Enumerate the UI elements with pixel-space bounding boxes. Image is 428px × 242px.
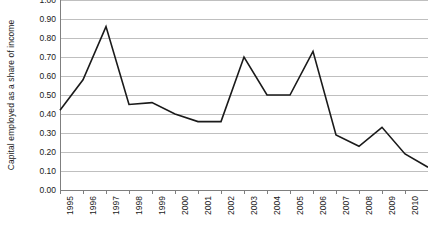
y-axis-tick-label: 0.20 (22, 148, 56, 157)
y-axis-tick-label: 0.80 (22, 34, 56, 43)
y-axis-title-label: Capital employed as a share of income (6, 20, 16, 171)
x-axis-tick-label: 1997 (110, 196, 122, 240)
y-axis-tick-labels: 1.000.900.800.700.600.500.400.300.200.10… (22, 0, 60, 190)
x-axis-tick-label: 2010 (409, 196, 421, 240)
x-axis-tick (129, 190, 130, 194)
x-axis-tick (290, 190, 291, 194)
x-axis-tick-label: 2008 (363, 196, 375, 240)
x-axis-tick-label: 2003 (248, 196, 260, 240)
x-axis-tick (267, 190, 268, 194)
y-axis-tick-label: 0.50 (22, 91, 56, 100)
line-chart: Capital employed as a share of income 1.… (0, 0, 428, 242)
y-axis-tick-label: 1.00 (22, 0, 56, 4)
y-axis-title: Capital employed as a share of income (0, 0, 22, 190)
x-axis-tick (152, 190, 153, 194)
x-axis-tick (382, 190, 383, 194)
x-axis-tick (244, 190, 245, 194)
plot-area (60, 0, 428, 190)
x-axis-tick-label: 2009 (386, 196, 398, 240)
x-axis-tick (336, 190, 337, 194)
series-line (60, 0, 428, 190)
x-axis-tick-label: 1995 (64, 196, 76, 240)
x-axis-tick (221, 190, 222, 194)
x-axis-tick (175, 190, 176, 194)
x-axis-tick-label: 1999 (156, 196, 168, 240)
x-axis-tick-label: 2000 (179, 196, 191, 240)
y-axis-tick-label: 0.10 (22, 167, 56, 176)
x-axis-tick-label: 2002 (225, 196, 237, 240)
x-axis-tick-labels: 1995199619971998199920002001200220032004… (60, 196, 428, 242)
x-axis-tick (313, 190, 314, 194)
x-axis-tick-label: 2001 (202, 196, 214, 240)
y-axis-tick-label: 0.70 (22, 53, 56, 62)
y-axis-tick-label: 0.00 (22, 186, 56, 195)
x-axis-tick (106, 190, 107, 194)
x-axis-tick (359, 190, 360, 194)
y-axis-tick-label: 0.30 (22, 129, 56, 138)
x-axis-tick-label: 1996 (87, 196, 99, 240)
y-axis-tick-label: 0.60 (22, 72, 56, 81)
x-axis-tick-label: 2005 (294, 196, 306, 240)
x-axis-tick (60, 190, 61, 194)
series-polyline (60, 27, 428, 168)
x-axis-tick (198, 190, 199, 194)
x-axis-tick-label: 1998 (133, 196, 145, 240)
x-axis-tick-label: 2004 (271, 196, 283, 240)
x-axis-tick-label: 2007 (340, 196, 352, 240)
x-axis-tick-label: 2006 (317, 196, 329, 240)
x-axis-tick (405, 190, 406, 194)
x-axis-tick (83, 190, 84, 194)
x-axis-ticks (60, 190, 428, 195)
y-axis-tick-label: 0.90 (22, 15, 56, 24)
y-axis-tick-label: 0.40 (22, 110, 56, 119)
